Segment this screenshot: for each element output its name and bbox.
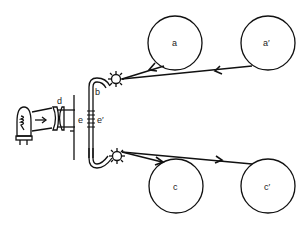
lower-sprocket-icon bbox=[109, 148, 125, 164]
lamp-icon bbox=[16, 107, 32, 145]
diagram-canvas: a a′ b c c′ d e e′ bbox=[0, 0, 308, 229]
label-a-prime: a′ bbox=[263, 38, 270, 48]
condenser-lens-icon bbox=[53, 107, 75, 130]
upper-sprocket-icon bbox=[108, 71, 124, 87]
beam-bottom bbox=[32, 128, 52, 131]
gate-frame bbox=[87, 111, 95, 127]
lower-film-strands bbox=[122, 152, 252, 165]
label-b: b bbox=[95, 87, 100, 97]
upper-film-strands bbox=[122, 63, 252, 79]
label-c: c bbox=[173, 182, 178, 192]
label-c-prime: c′ bbox=[264, 182, 271, 192]
label-a: a bbox=[172, 38, 177, 48]
label-d: d bbox=[57, 96, 62, 106]
label-e-prime: e′ bbox=[97, 115, 104, 125]
label-e: e bbox=[78, 115, 83, 125]
beam-top bbox=[32, 108, 52, 112]
